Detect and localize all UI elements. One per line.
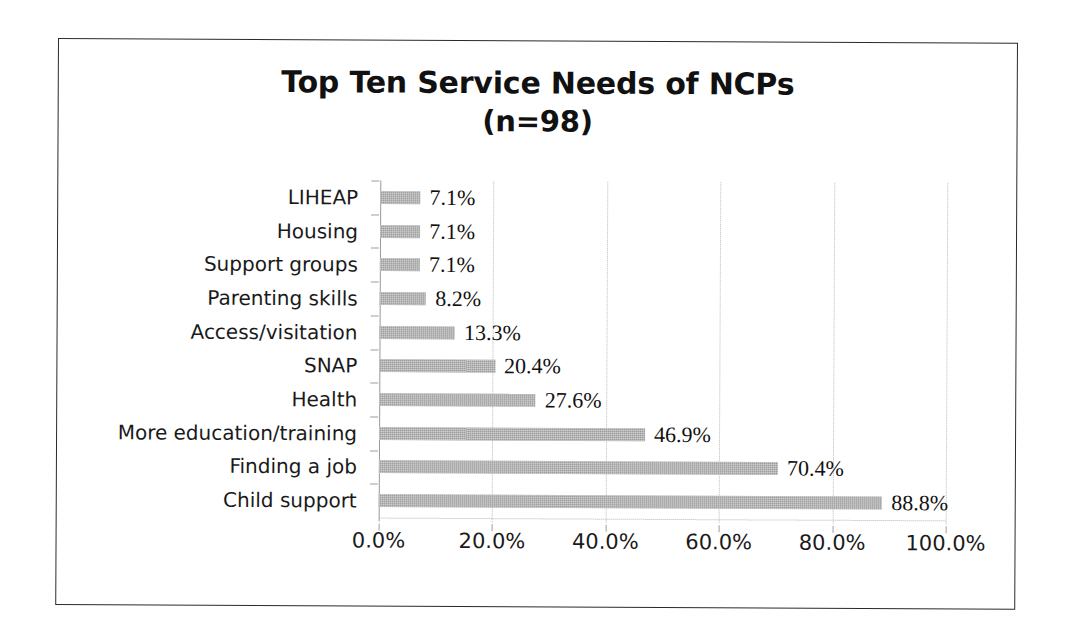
category-label: Health [57, 387, 357, 410]
bar [379, 494, 883, 509]
plot-area: LIHEAP7.1%Housing7.1%Support groups7.1%P… [379, 181, 948, 521]
y-axis-tick [371, 214, 379, 215]
x-axis-tick-label: 60.0% [685, 529, 752, 555]
bar-value-label: 8.2% [426, 287, 481, 311]
bar-value-label: 7.1% [420, 219, 475, 243]
x-axis-tick-label: 40.0% [572, 529, 639, 555]
category-label: LIHEAP [58, 185, 358, 208]
bar [379, 461, 778, 476]
chart-frame: Top Ten Service Needs of NCPs (n=98) LIH… [55, 38, 1018, 610]
chart-row: Access/visitation13.3% [57, 314, 1057, 353]
bar-value-label: 27.6% [536, 388, 602, 412]
x-axis-tick-label: 20.0% [459, 528, 526, 554]
x-axis-tick-label: 100.0% [905, 530, 985, 556]
y-axis-tick [370, 450, 378, 451]
category-label: More education/training [57, 421, 357, 444]
chart-row: LIHEAP7.1% [58, 179, 1058, 218]
bar [380, 191, 420, 204]
y-axis-tick [371, 181, 379, 182]
x-axis-tick-label: 0.0% [352, 527, 405, 553]
chart-row: SNAP20.4% [57, 348, 1057, 387]
y-axis-tick [370, 383, 378, 384]
y-axis-tick [371, 315, 379, 316]
category-label: SNAP [57, 353, 357, 376]
y-axis-tick [370, 484, 378, 485]
bar [380, 292, 427, 305]
page-title: Top Ten Service Needs of NCPs [59, 61, 1017, 105]
bar-value-label: 20.4% [495, 354, 561, 378]
bar [380, 326, 455, 339]
category-label: Finding a job [57, 454, 357, 477]
y-axis-tick [370, 349, 378, 350]
bar [379, 427, 645, 441]
chart-title-block: Top Ten Service Needs of NCPs (n=98) [59, 61, 1017, 144]
bar [380, 258, 420, 271]
bar-value-label: 70.4% [778, 457, 844, 481]
bar [380, 225, 420, 238]
bar [379, 359, 495, 373]
chart-row: More education/training46.9% [57, 415, 1057, 454]
chart-row: Child support88.8% [57, 482, 1057, 521]
bar-value-label: 13.3% [455, 321, 521, 345]
chart-row: Health27.6% [57, 381, 1057, 420]
category-label: Access/visitation [58, 320, 358, 343]
bar-series: LIHEAP7.1%Housing7.1%Support groups7.1%P… [380, 181, 947, 184]
y-axis-tick [371, 248, 379, 249]
category-label: Housing [58, 219, 358, 242]
category-label: Support groups [58, 252, 358, 275]
y-axis-tick [370, 416, 378, 417]
chart-row: Support groups7.1% [58, 246, 1058, 285]
bar-value-label: 46.9% [645, 423, 711, 447]
category-label: Parenting skills [58, 286, 358, 309]
category-label: Child support [57, 488, 357, 511]
chart-subtitle: (n=98) [59, 100, 1017, 144]
x-axis-tick-label: 80.0% [799, 530, 866, 556]
bar-value-label: 7.1% [420, 186, 475, 210]
bar-value-label: 7.1% [420, 253, 475, 277]
x-axis: 0.0%20.0%40.0%60.0%80.0%100.0% [378, 528, 945, 571]
y-axis-tick [371, 282, 379, 283]
chart-row: Finding a job70.4% [57, 449, 1057, 488]
chart-row: Parenting skills8.2% [58, 280, 1058, 319]
bar-value-label: 88.8% [882, 491, 948, 515]
bar [379, 393, 536, 407]
chart-row: Housing7.1% [58, 213, 1058, 252]
